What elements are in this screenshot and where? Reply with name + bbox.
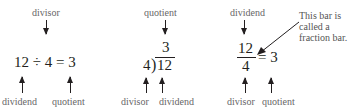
division-bracket: ) xyxy=(151,56,156,74)
fraction-bar-note: This bar is called a fraction bar. xyxy=(299,10,347,43)
dividend-value: 12 xyxy=(157,57,172,74)
quotient-value: 3 xyxy=(162,39,170,56)
divisor-label: divisor xyxy=(121,96,149,107)
quotient-label: quotient xyxy=(262,96,295,107)
arrow-down-icon xyxy=(165,20,166,34)
note-line: fraction bar. xyxy=(299,32,347,43)
denominator-value: 4 xyxy=(242,58,250,75)
quotient-label: quotient xyxy=(144,7,177,18)
dividend-label: dividend xyxy=(2,96,37,107)
arrow-up-icon xyxy=(146,78,147,93)
division-equation: 12 ÷ 4 = 3 xyxy=(14,54,76,71)
quotient-label: quotient xyxy=(52,96,85,107)
note-line: This bar is xyxy=(299,10,347,21)
note-line: called a xyxy=(299,21,347,32)
arrow-up-icon xyxy=(70,77,71,93)
pointer-arrow-icon xyxy=(255,20,305,60)
dividend-label: dividend xyxy=(230,7,265,18)
divisor-value: 4 xyxy=(143,57,151,74)
divisor-label: divisor xyxy=(32,7,60,18)
arrow-down-icon xyxy=(244,20,245,34)
arrow-up-icon xyxy=(245,78,246,93)
dividend-label: dividend xyxy=(159,96,194,107)
numerator-value: 12 xyxy=(238,40,253,57)
divisor-label: divisor xyxy=(227,96,255,107)
arrow-up-icon xyxy=(162,78,163,93)
arrow-up-icon xyxy=(271,78,272,93)
arrow-up-icon xyxy=(22,77,23,93)
arrow-down-icon xyxy=(46,20,47,34)
